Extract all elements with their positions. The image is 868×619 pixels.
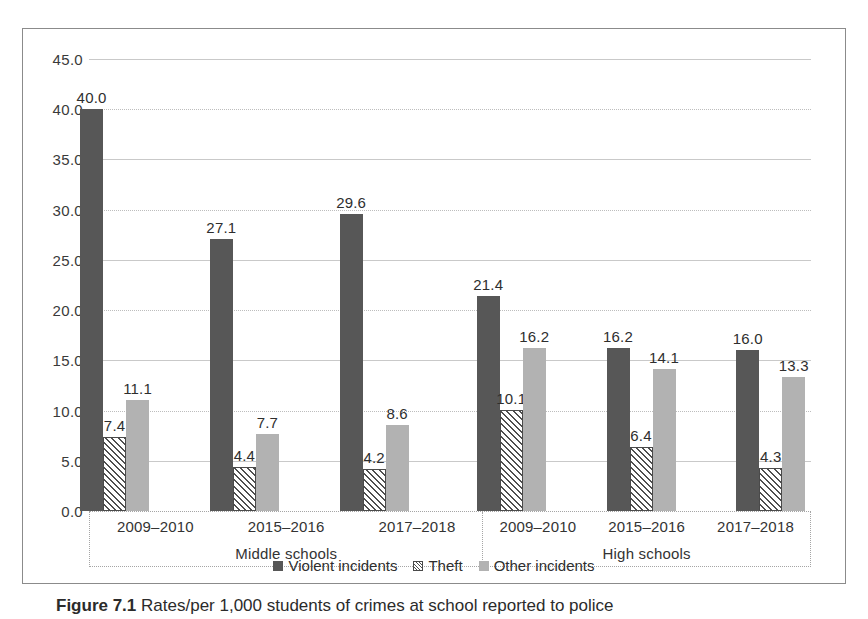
bar-violent[interactable] — [340, 214, 363, 511]
bar-cluster: 27.14.47.7 — [202, 59, 286, 511]
bar-theft[interactable] — [233, 467, 256, 511]
legend-swatch-theft-icon — [413, 561, 423, 571]
bar-cluster: 16.04.313.3 — [729, 59, 813, 511]
legend-label: Theft — [428, 557, 462, 574]
bar-theft[interactable] — [759, 468, 782, 511]
legend-label: Other incidents — [494, 557, 595, 574]
bar-value-label: 8.6 — [386, 405, 407, 422]
bar-value-label: 16.2 — [519, 328, 549, 345]
bar-slot: 6.4 — [630, 59, 653, 511]
bar-value-label: 4.4 — [234, 447, 255, 464]
bar-slot: 14.1 — [653, 59, 676, 511]
bar-value-label: 16.2 — [603, 328, 633, 345]
bar-violent[interactable] — [736, 350, 759, 511]
bar-slot: 4.3 — [759, 59, 782, 511]
bar-slot: 16.2 — [607, 59, 630, 511]
legend-item-other[interactable]: Other incidents — [479, 557, 595, 574]
bar-value-label: 10.1 — [496, 390, 526, 407]
category-label-row: 2009–20102015–20162017–2018 — [483, 512, 810, 540]
bar-value-label: 27.1 — [206, 219, 236, 236]
bar-cluster: 21.410.116.2 — [469, 59, 553, 511]
bar-value-label: 7.4 — [104, 417, 125, 434]
bar-violent[interactable] — [607, 348, 630, 511]
bar-cluster: 29.64.28.6 — [332, 59, 416, 511]
bar-slot: 4.2 — [363, 59, 386, 511]
bar-slot: 40.0 — [80, 59, 103, 511]
bar-slot: 8.6 — [386, 59, 409, 511]
category-label-row: 2009–20102015–20162017–2018 — [90, 512, 482, 540]
figure-frame: 0.05.010.015.020.025.030.035.040.045.0 4… — [22, 28, 846, 584]
bar-other[interactable] — [386, 425, 409, 511]
legend-swatch-other-icon — [479, 561, 489, 571]
bar-slot: 13.3 — [782, 59, 805, 511]
figure-caption: Figure 7.1 Rates/per 1,000 students of c… — [56, 596, 816, 616]
bar-slot: 21.4 — [477, 59, 500, 511]
bar-slot: 16.0 — [736, 59, 759, 511]
legend-item-violent[interactable]: Violent incidents — [273, 557, 397, 574]
bars-layer: 40.07.411.127.14.47.729.64.28.621.410.11… — [89, 59, 811, 511]
bar-value-label: 16.0 — [733, 330, 763, 347]
bar-slot: 29.6 — [340, 59, 363, 511]
chart-plot-area: 0.05.010.015.020.025.030.035.040.045.0 4… — [89, 59, 811, 511]
bar-violent[interactable] — [80, 109, 103, 511]
bar-value-label: 14.1 — [649, 349, 679, 366]
bar-value-label: 13.3 — [779, 357, 809, 374]
chart-legend: Violent incidentsTheftOther incidents — [23, 557, 845, 574]
bar-slot: 4.4 — [233, 59, 256, 511]
bar-slot: 11.1 — [126, 59, 149, 511]
bar-other[interactable] — [126, 400, 149, 511]
bar-value-label: 40.0 — [77, 89, 107, 106]
bar-slot: 10.1 — [500, 59, 523, 511]
bar-value-label: 21.4 — [473, 276, 503, 293]
bar-value-label: 11.1 — [123, 380, 152, 397]
x-axis-tick-label: 2009–2010 — [90, 518, 221, 535]
bar-violent[interactable] — [210, 239, 233, 511]
bar-theft[interactable] — [103, 437, 126, 511]
bar-cluster: 16.26.414.1 — [599, 59, 683, 511]
bar-cluster: 40.07.411.1 — [73, 59, 157, 511]
bar-value-label: 29.6 — [336, 194, 366, 211]
bar-value-label: 7.7 — [257, 414, 278, 431]
bar-theft[interactable] — [500, 410, 523, 511]
legend-item-theft[interactable]: Theft — [413, 557, 462, 574]
bar-slot: 27.1 — [210, 59, 233, 511]
x-axis-tick-label: 2017–2018 — [701, 518, 810, 535]
bar-other[interactable] — [256, 434, 279, 511]
figure-number: Figure 7.1 — [56, 596, 136, 615]
legend-label: Violent incidents — [288, 557, 397, 574]
bar-slot: 7.4 — [103, 59, 126, 511]
bar-theft[interactable] — [363, 469, 386, 511]
bar-slot: 7.7 — [256, 59, 279, 511]
bar-value-label: 4.3 — [760, 448, 781, 465]
x-axis-tick-label: 2017–2018 — [352, 518, 483, 535]
bar-other[interactable] — [653, 369, 676, 511]
bar-value-label: 4.2 — [363, 449, 384, 466]
legend-swatch-violent-icon — [273, 561, 283, 571]
figure-caption-text: Rates/per 1,000 students of crimes at sc… — [141, 596, 613, 615]
x-axis-tick-label: 2015–2016 — [592, 518, 701, 535]
bar-other[interactable] — [523, 348, 546, 511]
x-axis-tick-label: 2009–2010 — [483, 518, 592, 535]
bar-theft[interactable] — [630, 447, 653, 511]
bar-other[interactable] — [782, 377, 805, 511]
bar-slot: 16.2 — [523, 59, 546, 511]
bar-value-label: 6.4 — [630, 427, 651, 444]
x-axis-tick-label: 2015–2016 — [221, 518, 352, 535]
